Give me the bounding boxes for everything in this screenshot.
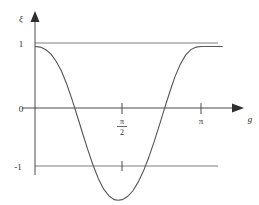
function-curve <box>35 47 223 201</box>
plot-svg: 1 0 -1 π 2 π ξ g <box>0 0 259 205</box>
x-axis-arrow-icon <box>232 104 244 113</box>
figure-container: 1 0 -1 π 2 π ξ g <box>0 0 259 205</box>
x-axis-label: g <box>248 114 253 124</box>
y-tick-label-minus-1: -1 <box>14 162 22 172</box>
x-tick-label-pi: π <box>199 116 204 126</box>
x-tick-label-pi-over-2-denominator: 2 <box>120 128 124 137</box>
y-tick-label-0: 0 <box>19 104 24 114</box>
y-tick-label-1: 1 <box>19 39 24 49</box>
x-tick-label-pi-over-2: π 2 <box>117 117 127 137</box>
x-tick-label-pi-over-2-numerator: π <box>120 117 124 126</box>
y-axis-label: ξ <box>19 14 23 24</box>
y-axis-arrow-icon <box>31 11 40 22</box>
